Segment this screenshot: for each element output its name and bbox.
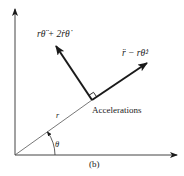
figure-caption: (b) [89,159,100,169]
radial-acceleration-label: r̈ − rθ̇² [122,48,148,58]
transverse-acceleration-vector [56,46,92,100]
radius-line [15,100,92,155]
accelerations-label: Accelerations [92,105,142,115]
transverse-acceleration-label: rθ̈ + 2ṙθ̇ [37,29,73,39]
angle-arc [48,132,56,155]
angle-label: θ [55,139,59,149]
polar-acceleration-diagram: rθ̈ + 2ṙθ̇ r̈ − rθ̇² Accelerations r θ (… [0,0,184,176]
radius-label: r [56,111,60,120]
radial-acceleration-vector [92,63,147,100]
